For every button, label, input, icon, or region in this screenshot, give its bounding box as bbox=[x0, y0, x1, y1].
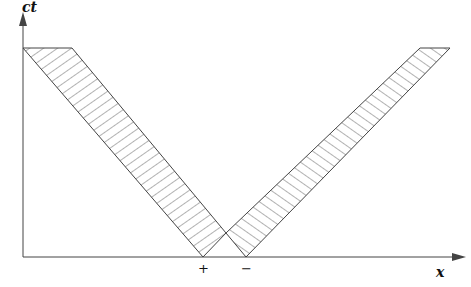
diagram-canvas bbox=[0, 0, 471, 287]
y-axis-label: ct bbox=[22, 0, 37, 15]
left-moving-band bbox=[23, 48, 226, 257]
x-axis-label: x bbox=[436, 264, 444, 280]
right-moving-band bbox=[226, 48, 450, 257]
tick-plus-label: + bbox=[198, 261, 209, 276]
tick-minus-label: − bbox=[241, 261, 252, 276]
x-axis-arrow-icon bbox=[452, 253, 466, 261]
spacetime-diagram: ct x + − bbox=[0, 0, 471, 287]
